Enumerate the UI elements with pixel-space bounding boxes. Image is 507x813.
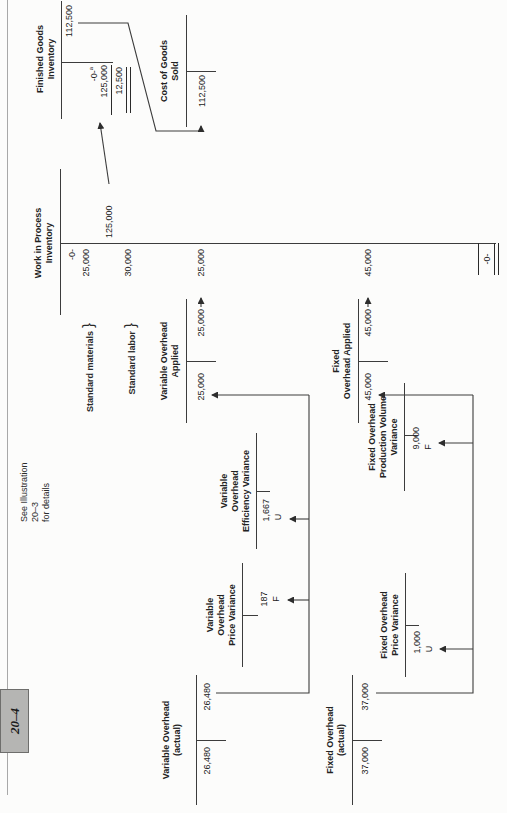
account-title: Price Variance (227, 563, 238, 667)
beginning-balance: -0-a (86, 67, 99, 113)
account-title: Sold (170, 15, 181, 127)
credit-amount: 26,480 (202, 683, 212, 735)
debit-amount: 125,000 (99, 65, 109, 113)
account-title: Variance (389, 377, 400, 497)
see-illustration-note: See Illustration 20–3 for details (19, 442, 52, 522)
t-account-stem (358, 361, 388, 362)
note-line3: for details (41, 442, 52, 522)
top-rule (7, 0, 8, 795)
debit-amount: 37,000 (360, 747, 370, 799)
double-underline (126, 67, 131, 113)
account-title: Fixed Overhead (379, 573, 390, 677)
account-title: Applied (170, 299, 181, 423)
wip-to-fg-arrow (100, 123, 109, 184)
t-account-stem (60, 243, 496, 244)
t-account-stem (186, 71, 216, 72)
account-title: Cost of Goods (159, 15, 170, 127)
footnote-marker: a (88, 67, 94, 70)
variance-amount: 9,000 (411, 427, 421, 467)
account-title: Work in Process (33, 173, 44, 313)
illustration-20-4: 20–4 See Illustration 20–3 for details V… (0, 0, 507, 813)
standard-materials-label: Standard materials (85, 331, 96, 427)
variance-flag: F (423, 427, 433, 467)
account-title: Variable Overhead (161, 675, 172, 805)
variance-amount: 1,000 (412, 631, 422, 667)
t-account-stem (256, 491, 270, 492)
account-title: Efficiency Variance (241, 433, 252, 549)
ending-balance: 12,500 (114, 67, 124, 113)
credit-amount: 37,000 (360, 683, 370, 735)
double-underline (494, 243, 499, 275)
t-account-stem (196, 740, 226, 741)
scanned-page: 20–4 See Illustration 20–3 for details V… (0, 0, 507, 813)
debit-amount: 25,000 (196, 373, 206, 419)
brace-icon: } (122, 323, 138, 328)
debit-amount: 30,000 (123, 249, 133, 295)
account-title: Overhead (216, 563, 227, 667)
account-title: Variable Overhead (159, 299, 170, 423)
t-account-stem (405, 625, 419, 626)
variance-flag: U (273, 499, 283, 535)
variance-flag: F (271, 585, 281, 613)
account-title: (actual) (172, 675, 183, 805)
account-title: Overhead Applied (342, 299, 353, 423)
note-line1: See Illustration (19, 442, 30, 522)
note-line2: 20–3 (30, 442, 41, 522)
variance-amount: 1,667 (261, 499, 271, 535)
t-account-line (404, 383, 405, 491)
standard-labor-label: Standard labor (127, 331, 138, 427)
t-account-line (60, 169, 61, 315)
account-title: Fixed (331, 299, 342, 423)
t-account-stem (352, 740, 382, 741)
variance-flag: U (424, 631, 434, 667)
t-account-stem (186, 361, 216, 362)
sum-rule (111, 65, 112, 115)
account-title: Overhead (230, 433, 241, 549)
account-title: (actual) (336, 675, 347, 805)
account-title: Variable (219, 433, 230, 549)
account-title: Inventory (44, 173, 55, 313)
flow-arrows (0, 0, 507, 813)
debit-amount: 45,000 (363, 249, 373, 295)
account-title: Inventory (46, 0, 57, 118)
debit-amount: 112,500 (197, 75, 207, 121)
account-title: Variable (205, 563, 216, 667)
beginning-balance-value: -0- (89, 70, 99, 81)
t-account-stem (61, 62, 113, 63)
variance-amount: 187 (259, 585, 269, 613)
credit-amount: 25,000 (196, 309, 206, 355)
account-title: Production Volume (378, 377, 389, 497)
credit-amount: 125,000 (104, 188, 114, 238)
account-title: Finished Goods (35, 0, 46, 118)
debit-amount: 25,000 (81, 249, 91, 295)
credit-amount: 112,500 (64, 5, 74, 51)
t-account-line (61, 1, 62, 119)
account-title: Fixed Overhead (325, 675, 336, 805)
credit-amount: 45,000 (363, 309, 373, 355)
ending-balance: -0- (482, 243, 492, 275)
balance-rule (478, 243, 479, 275)
t-account-stem (242, 615, 258, 616)
account-title: Price Variance (390, 573, 401, 677)
debit-amount: -0- (67, 249, 77, 295)
debit-amount: 25,000 (196, 249, 206, 295)
debit-amount: 26,480 (202, 747, 212, 799)
debit-amount: 45,000 (363, 373, 373, 419)
illustration-number-tab: 20–4 (0, 689, 29, 753)
brace-icon: } (80, 323, 96, 328)
